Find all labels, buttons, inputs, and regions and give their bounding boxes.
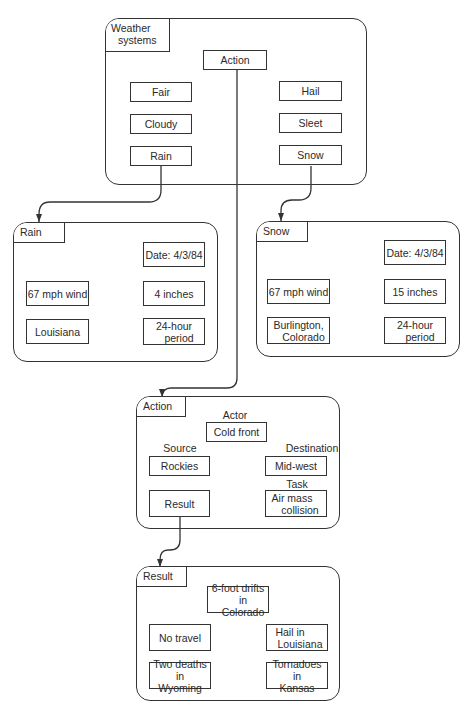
snow-date: Date: 4/3/84 — [384, 240, 446, 265]
rain-date: Date: 4/3/84 — [143, 242, 205, 267]
sleet-slot[interactable]: Sleet — [279, 113, 342, 133]
source-value: Rockies — [149, 456, 210, 476]
hail-value: Hail in Louisiana — [266, 624, 328, 651]
deaths-value: Two deaths in Wyoming — [149, 662, 211, 689]
tornadoes-value: Tornadoes in Kansas — [266, 662, 328, 689]
actor-label: Actor — [205, 409, 265, 421]
rain-location: Louisiana — [26, 319, 89, 344]
rain-slot[interactable]: Rain — [130, 146, 192, 166]
action-tab: Action — [137, 397, 186, 417]
arrow-head-icon — [278, 213, 284, 221]
drifts-value: 6-foot drifts in Colorado — [207, 586, 269, 613]
fair-slot[interactable]: Fair — [130, 82, 192, 102]
snow-tab: Snow — [257, 222, 308, 242]
task-label: Task — [266, 478, 328, 490]
snow-slot[interactable]: Snow — [279, 145, 342, 165]
snow-location: Burlington, Colorado — [267, 317, 330, 344]
action-slot[interactable]: Action — [203, 50, 267, 70]
rain-tab: Rain — [14, 223, 65, 243]
snow-wind: 67 mph wind — [267, 279, 330, 304]
hail-slot[interactable]: Hail — [279, 81, 342, 101]
snow-amount: 15 inches — [384, 279, 446, 304]
destination-label: Destination — [272, 442, 352, 454]
source-label: Source — [150, 442, 210, 454]
result-tab: Result — [137, 567, 187, 587]
actor-value: Cold front — [206, 422, 267, 442]
arrow-head-icon — [36, 214, 42, 222]
no-travel-value: No travel — [149, 624, 211, 651]
frame-title: Weather — [111, 22, 164, 34]
rain-period: 24-hour period — [143, 318, 205, 345]
task-value: Air mass collision — [265, 490, 327, 517]
frame-title: systems — [111, 34, 164, 46]
result-slot[interactable]: Result — [149, 490, 210, 517]
snow-period: 24-hour period — [384, 317, 446, 344]
rain-wind: 67 mph wind — [26, 281, 89, 306]
destination-value: Mid-west — [265, 456, 327, 476]
cloudy-slot[interactable]: Cloudy — [130, 114, 192, 134]
rain-amount: 4 inches — [143, 281, 205, 306]
weather-systems-tab: Weather systems — [106, 19, 170, 52]
